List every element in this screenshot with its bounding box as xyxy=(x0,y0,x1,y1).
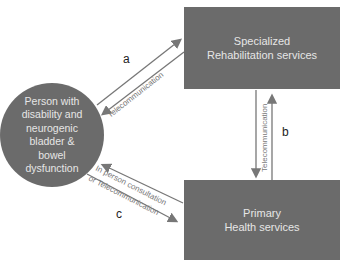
edge-a-label: a xyxy=(123,52,130,66)
primary-line1: Primary xyxy=(224,206,299,220)
edge-b-label: b xyxy=(282,125,289,139)
person-line3: neurogenic xyxy=(22,122,83,136)
person-line4: bladder & xyxy=(22,135,83,149)
edge-b-text: Telecommunication xyxy=(260,104,269,172)
specialized-rehab-node: Specialized Rehabilitation services xyxy=(184,7,340,89)
primary-line2: Health services xyxy=(224,220,299,234)
person-line1: Person with xyxy=(22,95,83,109)
primary-health-node: Primary Health services xyxy=(184,180,340,260)
person-line2: disability and xyxy=(22,108,83,122)
person-node: Person with disability and neurogenic bl… xyxy=(0,83,104,187)
person-line5: bowel xyxy=(22,149,83,163)
specialized-line2: Rehabilitation services xyxy=(207,48,317,62)
edge-c-label: c xyxy=(116,207,122,221)
edge-a-text: Telecommunication xyxy=(106,70,166,119)
specialized-line1: Specialized xyxy=(207,34,317,48)
person-line6: dysfunction xyxy=(22,162,83,176)
